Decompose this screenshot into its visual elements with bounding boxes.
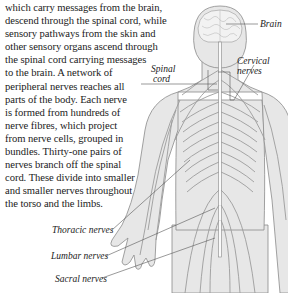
label-spinal-line1: Spinal: [151, 64, 175, 75]
text-line: peripheral nerves reaches all: [5, 80, 205, 93]
text-line: cord. These divide into smaller: [5, 171, 205, 184]
label-cervical-line2: nerves: [237, 66, 262, 77]
article-text: which carry messages from the brain, des…: [5, 1, 205, 211]
label-spinal-line2: cord: [153, 74, 170, 85]
label-sacral-nerves: Sacral nerves: [55, 274, 107, 285]
label-lumbar-nerves: Lumbar nerves: [51, 251, 108, 262]
text-line: other sensory organs ascend through: [5, 40, 205, 53]
text-line: and smaller nerves throughout: [5, 184, 205, 197]
text-line: the torso and the limbs.: [5, 197, 205, 210]
text-line: nerves branch off the spinal: [5, 158, 205, 171]
text-line: sensory pathways from the skin and: [5, 27, 205, 40]
text-line: which carry messages from the brain,: [5, 1, 205, 14]
text-line: from nerve cells, grouped in: [5, 132, 205, 145]
label-brain: Brain: [260, 19, 282, 30]
label-cervical-line1: Cervical: [237, 56, 270, 67]
label-thoracic-nerves: Thoracic nerves: [52, 225, 113, 236]
text-line: bundles. Thirty-one pairs of: [5, 145, 205, 158]
text-line: descend through the spinal cord, while: [5, 14, 205, 27]
text-line: is formed from hundreds of: [5, 106, 205, 119]
text-line: parts of the body. Each nerve: [5, 93, 205, 106]
text-line: nerve fibres, which project: [5, 119, 205, 132]
